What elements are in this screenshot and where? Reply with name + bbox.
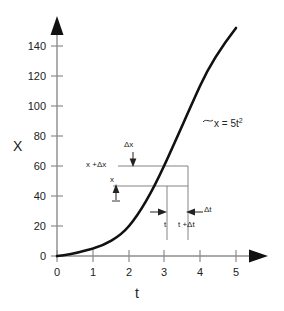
y-tick-label-40: 40 (16, 191, 46, 202)
y-tick-label-100: 100 (16, 101, 46, 112)
t-marker-label: t (164, 221, 166, 229)
delta-x-arrow (130, 152, 137, 167)
y-tick-label-140: 140 (16, 41, 46, 52)
curve-equation-label: x = 5t2 (214, 117, 243, 129)
annotation-construction-lines (113, 166, 188, 240)
x-value-label: x (110, 176, 114, 184)
x-tick-label-1: 1 (83, 267, 103, 278)
t-plus-delta-t-label: t +Δt (178, 221, 195, 229)
curve-equation-exponent: 2 (239, 117, 243, 124)
delta-t-label: Δt (204, 206, 212, 214)
curve-x-equals-5t-squared (57, 28, 236, 256)
equation-leader-line (203, 120, 213, 122)
x-marker-arrow (112, 184, 120, 201)
x-axis-title: t (135, 286, 139, 300)
y-axis (51, 16, 64, 258)
y-tick-label-60: 60 (16, 161, 46, 172)
y-tick-label-0: 0 (16, 251, 46, 262)
t-marker-arrow (150, 209, 167, 216)
x-axis (57, 250, 268, 263)
curve-equation-text: x = 5t (214, 118, 239, 129)
x-tick-label-4: 4 (190, 267, 210, 278)
x-axis-arrowhead (249, 250, 268, 263)
x-plus-delta-x-label: x +Δx (86, 161, 106, 169)
y-axis-arrowhead (51, 16, 64, 35)
x-tick-label-0: 0 (47, 267, 67, 278)
delta-t-marker-arrow (186, 209, 203, 216)
y-axis-title: X (13, 139, 22, 153)
x-tick-label-3: 3 (154, 267, 174, 278)
y-tick-label-120: 120 (16, 71, 46, 82)
y-tick-label-20: 20 (16, 221, 46, 232)
figure-container: 140 120 100 80 60 40 20 0 X 0 1 2 3 4 5 … (0, 0, 284, 311)
x-tick-label-5: 5 (226, 267, 246, 278)
x-tick-label-2: 2 (119, 267, 139, 278)
delta-x-label: Δx (124, 141, 133, 149)
